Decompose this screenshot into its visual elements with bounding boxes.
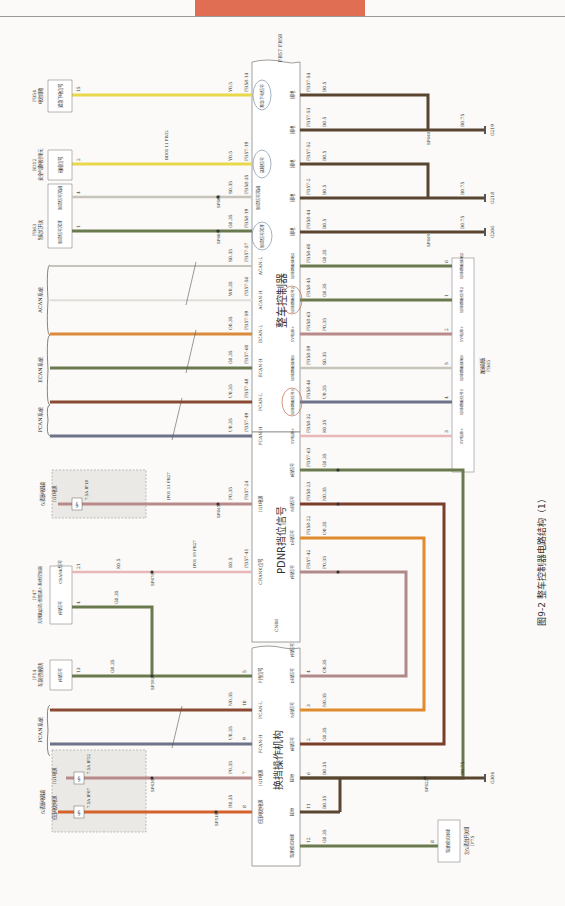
svg-text:P0.35: P0.35 xyxy=(228,761,233,774)
svg-text:FB58-59: FB58-59 xyxy=(306,345,311,365)
svg-text:BD05 11 FB32: BD05 11 FB32 xyxy=(164,130,169,160)
svg-text:Y0.5: Y0.5 xyxy=(228,151,233,162)
svg-text:5: 5 xyxy=(444,362,449,365)
svg-text:R0.35: R0.35 xyxy=(228,794,233,808)
svg-text:G304: G304 xyxy=(490,772,495,784)
svg-text:FB58-35: FB58-35 xyxy=(244,174,249,194)
svg-text:5V电源+: 5V电源+ xyxy=(290,428,295,444)
svg-text:2: 2 xyxy=(76,158,81,161)
svg-text:B0.5: B0.5 xyxy=(322,81,327,92)
svg-text:驾驶模式按键: 驾驶模式按键 xyxy=(289,834,295,858)
svg-text:FB58-23: FB58-23 xyxy=(306,481,311,501)
svg-text:5V电源+: 5V电源+ xyxy=(459,326,464,342)
svg-text:FB57-49: FB57-49 xyxy=(244,412,249,432)
svg-text:低压电池电源: 低压电池电源 xyxy=(51,795,58,820)
svg-text:ACAN-H: ACAN-H xyxy=(258,290,263,310)
svg-text:加速踏板信号2: 加速踏板信号2 xyxy=(459,286,464,313)
svg-text:碰撞信号: 碰撞信号 xyxy=(259,157,265,173)
svg-text:7.5A IF22: 7.5A IF22 xyxy=(86,754,91,774)
svg-text:FB58-22: FB58-22 xyxy=(306,515,311,535)
svg-text:K0.5: K0.5 xyxy=(116,558,121,569)
svg-text:SP622: SP622 xyxy=(424,778,429,792)
svg-text:CRANK信号: CRANK信号 xyxy=(57,560,63,583)
pcan-bus-vcu: PCAN系统 U0.35 FB57-48 PCAN-L U0.35 FB57-4… xyxy=(37,378,263,445)
svg-text:左仪表台开关组: 左仪表台开关组 xyxy=(463,826,470,855)
svg-text:B0.75: B0.75 xyxy=(460,182,465,195)
svg-text:FB57-53: FB57-53 xyxy=(306,107,311,127)
svg-text:W0.35: W0.35 xyxy=(228,281,233,296)
svg-text:K0.5: K0.5 xyxy=(228,557,233,568)
svg-text:4: 4 xyxy=(444,396,449,399)
svg-text:PCAN-L: PCAN-L xyxy=(258,701,263,719)
svg-text:§: § xyxy=(78,809,81,816)
svg-text:2: 2 xyxy=(444,328,449,331)
wiring-diagram: FB57 FB58 整车控制器 PDNR挡位信号 CN06 换挡操作机构 FB5… xyxy=(0,0,565,906)
svg-text:1: 1 xyxy=(76,225,81,228)
svg-text:FB58-19: FB58-19 xyxy=(244,208,249,228)
svg-text:B0.5: B0.5 xyxy=(322,150,327,161)
svg-text:B0.75: B0.75 xyxy=(460,762,465,775)
svg-text:SP603: SP603 xyxy=(216,230,221,244)
svg-text:IP01 11 FB27: IP01 11 FB27 xyxy=(166,472,171,500)
svg-text:N0.35: N0.35 xyxy=(228,692,233,706)
brake-switch: FB63 制动灯开关 制动信号常闭 制动信号常开 4 1 S0.35 FB58-… xyxy=(32,174,272,250)
ig1-fusebox: 仪表板电器盒 IG1电源 § 7.5A IF18 IP01 11 FB27 SP… xyxy=(39,470,264,518)
svg-text:5V电源+: 5V电源+ xyxy=(290,326,295,342)
accelerator-pedal-fb65: 加速踏板 FB65 6 1 2 5 4 3 加速踏板接地2 加速踏板信号2 5V… xyxy=(282,243,491,472)
svg-text:FB57-2: FB57-2 xyxy=(306,178,311,195)
svg-text:FB57-24: FB57-24 xyxy=(244,480,249,500)
svg-text:G0.35: G0.35 xyxy=(114,590,119,604)
svg-text:PCAN系统: PCAN系统 xyxy=(37,407,44,432)
svg-text:S0.35: S0.35 xyxy=(228,249,233,262)
svg-text:4: 4 xyxy=(76,191,81,194)
svg-text:制动信号常开: 制动信号常开 xyxy=(259,224,265,248)
svg-text:FB57-56: FB57-56 xyxy=(244,276,249,296)
svg-text:FB57-42: FB57-42 xyxy=(306,549,311,569)
svg-text:2: 2 xyxy=(306,738,311,741)
svg-text:紧急下电信号: 紧急下电信号 xyxy=(259,84,265,108)
svg-text:SP518: SP518 xyxy=(214,812,219,826)
svg-text:8: 8 xyxy=(430,840,435,843)
svg-text:SP670: SP670 xyxy=(150,572,155,586)
svg-text:SP649: SP649 xyxy=(426,233,431,247)
svg-text:6: 6 xyxy=(444,260,449,263)
svg-text:仪表板电器盒: 仪表板电器盒 xyxy=(39,481,46,506)
svg-text:4: 4 xyxy=(76,601,81,604)
svg-text:3: 3 xyxy=(306,704,311,707)
svg-text:8: 8 xyxy=(242,805,247,808)
svg-text:D挡信号: D挡信号 xyxy=(289,668,295,683)
svg-text:B0.5: B0.5 xyxy=(322,184,327,195)
svg-text:P0.35: P0.35 xyxy=(322,556,327,569)
svg-text:5: 5 xyxy=(242,670,247,673)
svg-text:电池组箱: 电池组箱 xyxy=(37,87,44,104)
svg-text:B0.75: B0.75 xyxy=(460,216,465,229)
svg-text:FB57-60: FB57-60 xyxy=(244,344,249,364)
svg-text:FB57-41: FB57-41 xyxy=(244,548,249,568)
vcu-connectors: FB57 FB58 xyxy=(277,34,283,63)
svg-text:N挡信号: N挡信号 xyxy=(289,702,295,718)
svg-text:S0.35: S0.35 xyxy=(322,352,327,365)
svg-text:FB57-48: FB57-48 xyxy=(244,378,249,398)
svg-text:11: 11 xyxy=(306,803,311,809)
svg-text:G219: G219 xyxy=(490,124,495,136)
svg-text:IP14: IP14 xyxy=(32,670,37,681)
svg-text:21: 21 xyxy=(76,563,81,569)
svg-text:G218: G218 xyxy=(490,192,495,204)
svg-text:加速踏板信号1: 加速踏板信号1 xyxy=(459,389,464,415)
svg-text:安全气囊电控单元: 安全气囊电控单元 xyxy=(37,148,44,181)
shifter-title: 换挡操作机构 xyxy=(272,730,284,790)
svg-text:B0.75: B0.75 xyxy=(460,114,465,127)
svg-text:FB63: FB63 xyxy=(32,224,37,236)
svg-text:G0.35: G0.35 xyxy=(228,350,233,364)
svg-text:FB57-59: FB57-59 xyxy=(244,310,249,330)
svg-text:K0.35: K0.35 xyxy=(322,419,327,433)
svg-text:FB58-63: FB58-63 xyxy=(306,311,311,331)
svg-text:FB58-14: FB58-14 xyxy=(244,72,249,92)
svg-text:CRANK信号: CRANK信号 xyxy=(257,558,264,584)
svg-text:S0.35: S0.35 xyxy=(228,181,233,194)
svg-text:P挡信号: P挡信号 xyxy=(57,601,63,616)
svg-text:U0.35: U0.35 xyxy=(322,385,327,399)
svg-text:U0.35: U0.35 xyxy=(228,384,233,398)
svg-text:车身控制模块: 车身控制模块 xyxy=(37,662,44,687)
svg-text:IG1电源: IG1电源 xyxy=(257,495,264,512)
